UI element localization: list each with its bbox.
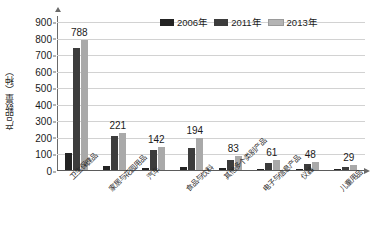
bar-2006年 [257, 169, 264, 170]
bar-group [57, 22, 96, 170]
bar-group [134, 22, 173, 170]
y-axis-tick-label: 100 [35, 149, 52, 160]
bar-2013年 [158, 147, 165, 171]
y-axis-tick-mark [53, 154, 56, 155]
legend-swatch-icon [214, 19, 228, 26]
y-axis-tick-label: 0 [46, 166, 52, 177]
y-axis-tick-mark [53, 171, 56, 172]
bar-value-label: 48 [305, 149, 316, 160]
y-axis-tick-mark [53, 72, 56, 73]
y-axis-tick-label: 600 [35, 66, 52, 77]
bar-value-label: 194 [186, 125, 203, 136]
bar-2006年 [334, 169, 341, 170]
legend-label: 2013年 [287, 15, 318, 29]
legend-label: 2011年 [231, 15, 261, 29]
legend-label: 2006年 [177, 15, 208, 29]
bar-value-label: 142 [148, 134, 165, 145]
bar-group [173, 22, 212, 170]
bar-2013年 [81, 40, 88, 170]
legend-item[interactable]: 2011年 [214, 15, 261, 29]
y-axis-tick-mark [53, 105, 56, 106]
y-axis-tick-mark [53, 22, 56, 23]
y-axis-tick-mark [53, 55, 56, 56]
bar-2011年 [73, 48, 80, 171]
bar-2013年 [119, 133, 126, 170]
plot-area: 78822114219483614829 [57, 22, 365, 171]
y-axis-title: 产品数量（种） [2, 26, 16, 172]
bar-value-label: 788 [71, 27, 88, 38]
bar-chart: 产品数量（种） 9008007006005004003002001000 788… [0, 0, 373, 245]
bar-2006年 [103, 166, 110, 170]
bar-group [327, 22, 366, 170]
bar-2006年 [65, 153, 72, 170]
bar-group [96, 22, 135, 170]
bar-2011年 [265, 163, 272, 170]
y-axis-tick-label: 800 [35, 33, 52, 44]
y-axis-tick-label: 200 [35, 132, 52, 143]
y-axis-tick-label: 900 [35, 17, 52, 28]
y-axis-tick-mark [53, 88, 56, 89]
chart-legend: 2006年2011年2013年 [160, 15, 318, 29]
bar-value-label: 221 [109, 120, 126, 131]
y-axis-tick-mark [53, 121, 56, 122]
legend-item[interactable]: 2013年 [268, 15, 318, 29]
legend-swatch-icon [268, 19, 284, 26]
y-axis-ticks: 9008007006005004003002001000 [18, 22, 54, 171]
legend-swatch-icon [160, 19, 174, 26]
bar-2011年 [342, 167, 349, 170]
bar-2011年 [111, 136, 118, 170]
bar-value-label: 61 [266, 147, 277, 158]
y-axis-tick-mark [53, 39, 56, 40]
bar-value-label: 29 [343, 152, 354, 163]
y-axis-tick-label: 500 [35, 83, 52, 94]
bar-2011年 [188, 148, 195, 170]
bar-group [288, 22, 327, 170]
y-axis-tick-mark [53, 138, 56, 139]
y-axis-tick-label: 300 [35, 116, 52, 127]
bar-value-label: 83 [228, 143, 239, 154]
y-axis-tick-label: 700 [35, 50, 52, 61]
y-axis-tick-label: 400 [35, 99, 52, 110]
legend-item[interactable]: 2006年 [160, 15, 208, 29]
y-axis-arrow-icon [55, 7, 61, 12]
bar-2006年 [180, 167, 187, 170]
